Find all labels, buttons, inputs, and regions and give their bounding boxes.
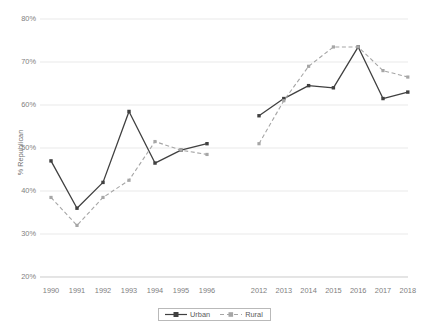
legend-swatch-urban	[165, 310, 187, 319]
legend-item-rural[interactable]: Rural	[220, 310, 263, 319]
x-tick-label: 1996	[190, 286, 224, 295]
legend-item-urban[interactable]: Urban	[165, 310, 210, 319]
legend-label-rural: Rural	[245, 310, 263, 319]
legend-swatch-rural	[220, 310, 242, 319]
legend-label-urban: Urban	[190, 310, 210, 319]
x-tick-label: 2018	[391, 286, 421, 295]
chart-legend: Urban Rural	[158, 308, 271, 321]
